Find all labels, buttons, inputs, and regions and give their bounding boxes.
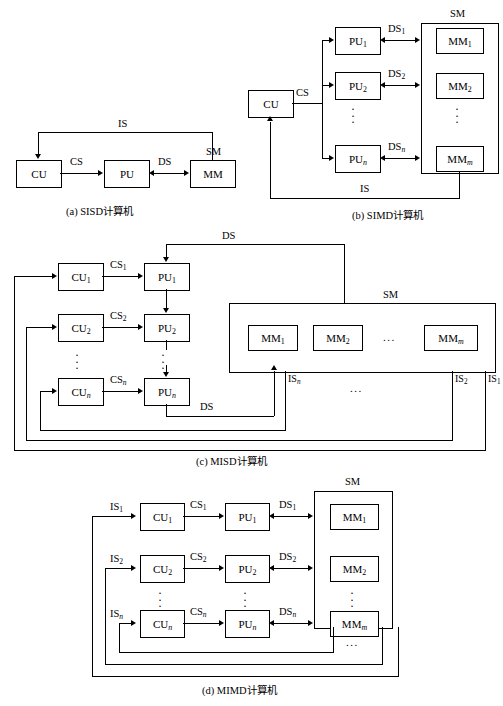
edge-label-is-1-d: IS1 (110, 502, 123, 513)
edge-ds1-d (274, 516, 308, 517)
arrowhead-ds-left-a (149, 170, 154, 176)
node-cu-n-c-label: CUn (71, 387, 90, 398)
edge-label-ds-1-d: DS1 (279, 500, 296, 511)
node-pu-1-b-label: PU1 (349, 36, 367, 47)
node-cu-a-label: CU (31, 169, 46, 180)
node-cu-n-c: CUn (58, 378, 104, 406)
node-cu-2-d: CU2 (140, 555, 185, 583)
edge-isn-up-c (40, 391, 41, 430)
arrowhead-ds1-right-d (308, 513, 313, 519)
arrowhead-pu1-pu2-c (163, 308, 169, 313)
node-cu-2-c: CU2 (58, 314, 104, 342)
arrowhead-pu1-b (329, 37, 334, 43)
node-mm-a: MM (190, 160, 236, 188)
group-label-sm-d: SM (345, 477, 360, 488)
edge-trunk-pu2-b (322, 85, 329, 86)
vdots-pu-b: ··· (351, 106, 355, 126)
panel-misd: SM MM1 MM2 ... MMm CU1 CU2 ··· CUn PU1 P… (0, 230, 503, 470)
arrowhead-dots-pun-c (163, 372, 169, 377)
edge-dsn-d (274, 623, 308, 624)
edge-label-is-1-c: IS1 (488, 374, 501, 384)
edge-ds-top-right-c (344, 244, 345, 303)
node-pu-1-d-label: PU1 (238, 512, 256, 523)
node-mm-m-b: MMm (436, 146, 484, 172)
edge-label-is-2-c: IS2 (455, 374, 468, 384)
edge-isn-in-c (40, 391, 54, 392)
node-cu-2-c-label: CU2 (71, 323, 90, 334)
vdots-mm-d: ··· (350, 590, 354, 610)
arrowhead-dsn-right-b (415, 155, 420, 161)
node-mm-2-b-label: MM2 (448, 81, 472, 92)
edge-is2-down-d (382, 627, 383, 664)
edge-pu-mm-a (154, 173, 184, 174)
node-mm-1-d: MM1 (330, 504, 379, 530)
arrowhead-csn-c (138, 388, 143, 394)
node-pu-n-c-label: PUn (158, 387, 176, 398)
edge-is2-up-c (26, 327, 27, 440)
node-mm-1-d-label: MM1 (343, 512, 367, 523)
edge-dots-pun-c (166, 365, 167, 372)
edge-isn-in-d (119, 623, 133, 624)
arrowhead-ds1-left-d (269, 513, 274, 519)
node-mm-2-c: MM2 (313, 325, 363, 351)
node-pu-2-b-label: PU2 (349, 81, 367, 92)
edge-is2-in-c (26, 327, 54, 328)
node-pu-2-d: PU2 (225, 555, 270, 583)
arrowhead-csn-d (219, 620, 224, 626)
edge-pu2-mm2-b (385, 85, 415, 86)
node-pu-1-c-label: PU1 (158, 272, 176, 283)
node-mm-m-d-label: MMm (342, 619, 367, 630)
edge-label-ds-2-b: DS2 (388, 69, 405, 80)
edge-isn-h-d (119, 652, 334, 653)
edge-is2-in-d (105, 568, 133, 569)
edge-cs2-d (183, 568, 219, 569)
edge-label-cs-1-d: CS1 (190, 500, 207, 511)
bottom-ellipsis-d: ... (346, 636, 359, 648)
edge-label-cs-b: CS (296, 88, 309, 99)
caption-c: (c) MISD计算机 (196, 453, 267, 468)
edge-ds2-d (274, 568, 308, 569)
node-pu-2-c-label: PU2 (158, 323, 176, 334)
arrowhead-ds2-right-d (308, 565, 313, 571)
edge-trunk-pu1-b (322, 40, 329, 41)
edge-pun-mmm-b (385, 158, 415, 159)
edge-ds-top-down-c (166, 244, 167, 257)
node-cu-1-d-label: CU1 (153, 512, 172, 523)
node-cu-1-d: CU1 (140, 503, 185, 531)
edge-label-cs-a: CS (70, 157, 83, 168)
is-ellipsis-c: ... (350, 382, 363, 394)
edge-is2-up-d (105, 568, 106, 664)
edge-cu-pu-a (60, 173, 98, 174)
edge-is-top-a (38, 132, 213, 133)
edge-label-cs-1-c: CS1 (110, 260, 127, 271)
node-cu-a: CU (16, 160, 62, 188)
node-pu-a: PU (104, 160, 150, 188)
edge-pu2-dots-c (166, 340, 167, 350)
edge-pu1-pu2-c (166, 289, 167, 308)
edge-cu-trunk-b (292, 103, 322, 104)
node-pu-2-d-label: PU2 (238, 564, 256, 575)
node-cu-1-c-label: CU1 (71, 272, 90, 283)
edge-pu1-mm1-b (385, 40, 415, 41)
node-cu-n-d-label: CUn (153, 619, 172, 630)
mm-ellipsis-c: ... (383, 331, 396, 343)
group-label-sm-b: SM (450, 9, 465, 20)
vdots-pu-c: ··· (161, 352, 165, 372)
node-mm-2-d-label: MM2 (343, 564, 367, 575)
edge-is-right-b (459, 172, 460, 198)
node-mm-m-c-label: MMm (438, 333, 463, 344)
node-cu-b: CU (248, 90, 294, 118)
node-mm-1-c: MM1 (248, 325, 298, 351)
node-cu-1-c: CU1 (58, 263, 104, 291)
arrowhead-ds1-right-b (415, 37, 420, 43)
arrowhead-ds-top-c (163, 257, 169, 262)
node-mm-2-b: MM2 (436, 73, 484, 99)
node-pu-2-b: PU2 (335, 72, 381, 100)
node-mm-1-b-label: MM1 (448, 36, 472, 47)
edge-is-left-b (270, 122, 271, 199)
panel-simd: SM CU CS PU1 DS1 MM1 PU2 DS2 MM2 ··· ··· (240, 0, 503, 230)
arrowhead-dsn-right-d (308, 620, 313, 626)
edge-label-is-a: IS (118, 119, 127, 130)
edge-ds-bottom-pun-c (166, 404, 167, 416)
node-mm-1-b: MM1 (436, 28, 484, 54)
